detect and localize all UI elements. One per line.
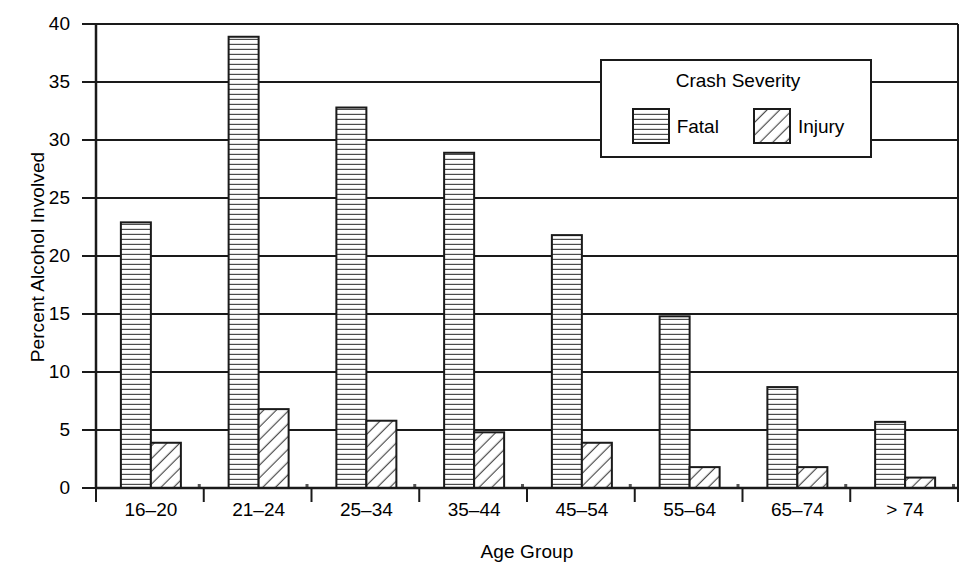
baseline-marker: [198, 484, 201, 487]
baseline-marker: [413, 484, 416, 487]
x-axis-title: Age Group: [96, 541, 958, 563]
baseline-marker: [737, 484, 740, 487]
bar-injury-6: [797, 467, 827, 488]
bar-chart: Percent Alcohol Involved 051015202530354…: [0, 0, 974, 576]
x-tick-label: 45–54: [522, 499, 642, 521]
baseline-marker: [952, 484, 955, 487]
bar-injury-3: [474, 432, 504, 488]
bar-fatal-0: [121, 222, 151, 488]
x-tick-label: 35–44: [414, 499, 534, 521]
legend-label-injury: Injury: [798, 117, 844, 136]
x-tick-label: 25–34: [306, 499, 426, 521]
baseline-marker: [629, 484, 632, 487]
bar-fatal-5: [660, 316, 690, 488]
bar-fatal-4: [552, 235, 582, 488]
bar-fatal-1: [229, 37, 259, 488]
x-tick-label: > 74: [845, 499, 965, 521]
x-tick-label: 55–64: [630, 499, 750, 521]
baseline-marker: [306, 484, 309, 487]
legend-entry-fatal: Fatal: [632, 108, 719, 144]
bar-injury-2: [366, 421, 396, 488]
legend-swatch-injury-icon: [753, 108, 791, 144]
legend-entry-injury: Injury: [753, 108, 844, 144]
x-tick-label: 65–74: [737, 499, 857, 521]
bar-injury-4: [582, 443, 612, 488]
baseline-marker: [521, 484, 524, 487]
legend: Crash Severity Fatal: [600, 59, 872, 158]
x-tick-label: 21–24: [199, 499, 319, 521]
bar-injury-1: [259, 409, 289, 488]
legend-swatch-fatal-icon: [632, 108, 670, 144]
legend-label-fatal: Fatal: [677, 117, 719, 136]
bar-fatal-7: [875, 422, 905, 488]
legend-title: Crash Severity: [602, 70, 874, 92]
bar-injury-0: [151, 443, 181, 488]
bar-injury-7: [905, 478, 935, 488]
x-tick-label: 16–20: [91, 499, 211, 521]
baseline-marker: [844, 484, 847, 487]
bar-fatal-3: [444, 153, 474, 488]
bar-injury-5: [690, 467, 720, 488]
bar-fatal-6: [767, 387, 797, 488]
bar-fatal-2: [336, 108, 366, 488]
legend-entries: Fatal Injury: [602, 108, 874, 144]
